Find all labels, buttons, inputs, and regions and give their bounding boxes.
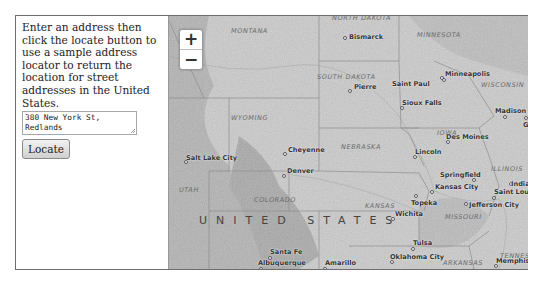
city-label: Santa Fe xyxy=(270,248,303,256)
city-label: Bismarck xyxy=(349,33,383,41)
city-marker-icon xyxy=(411,247,415,251)
state-label: ARKANSAS xyxy=(443,259,483,267)
map-view[interactable]: + − MONTANANORTH DAKOTAMINNESOTASOUTH DA… xyxy=(168,16,528,269)
city-label: Cheyenne xyxy=(288,146,325,154)
state-label: MISSOURI xyxy=(445,213,482,221)
city-marker-icon xyxy=(414,194,418,198)
city-label: Tulsa xyxy=(413,239,432,247)
state-label: NEBRASKA xyxy=(341,143,381,151)
state-label: COLORADO xyxy=(254,196,296,204)
city-label: Denver xyxy=(287,167,314,175)
locate-button[interactable]: Locate xyxy=(22,139,70,159)
instructions-text: Enter an address then click the locate b… xyxy=(22,21,164,109)
state-label: MINNESOTA xyxy=(417,31,461,39)
city-label: Memphis xyxy=(496,257,528,265)
city-label: Amarillo xyxy=(325,259,356,267)
city-label: Kansas City xyxy=(435,183,478,191)
state-label: KANSAS xyxy=(365,202,395,210)
city-label: Des Moines xyxy=(446,133,489,141)
city-label: Topeka xyxy=(411,199,437,207)
address-value: 380 New York St, Redlands xyxy=(25,113,100,132)
city-marker-icon xyxy=(492,196,496,200)
city-label: Indian xyxy=(511,180,528,188)
state-label: UTAH xyxy=(179,186,199,194)
city-marker-icon xyxy=(348,89,352,93)
state-label: ILLINOIS xyxy=(491,165,523,173)
zoom-control: + − xyxy=(179,29,203,70)
city-marker-icon xyxy=(323,267,327,269)
city-marker-icon xyxy=(343,36,347,40)
city-marker-icon xyxy=(259,267,263,269)
state-label: NORTH DAKOTA xyxy=(332,16,391,22)
locator-panel: Enter an address then click the locate b… xyxy=(16,16,168,269)
city-marker-icon xyxy=(282,174,286,178)
city-label: Saint Paul xyxy=(392,80,430,88)
city-label: Sioux Falls xyxy=(402,99,442,107)
city-label: Springfield xyxy=(440,171,481,179)
city-label: Jefferson City xyxy=(469,201,519,209)
app-frame: Enter an address then click the locate b… xyxy=(15,15,528,270)
state-label: WYOMING xyxy=(231,114,268,122)
address-input[interactable]: 380 New York St, Redlands xyxy=(22,111,137,135)
city-marker-icon xyxy=(464,202,468,206)
resize-grip-icon[interactable] xyxy=(130,128,135,133)
city-marker-icon xyxy=(442,78,446,82)
zoom-out-button[interactable]: − xyxy=(180,49,202,69)
state-label: WISCONSIN xyxy=(481,81,524,89)
state-label: SOUTH DAKOTA xyxy=(317,73,376,81)
city-label: Madison xyxy=(495,107,526,115)
city-marker-icon xyxy=(283,152,287,156)
state-label: MONTANA xyxy=(231,27,268,35)
city-label: Gran xyxy=(523,121,528,129)
city-marker-icon xyxy=(524,116,528,120)
country-label: UNITED STATES xyxy=(199,214,401,227)
city-label: Salt Lake City xyxy=(186,154,237,162)
city-marker-icon xyxy=(430,190,434,194)
zoom-in-button[interactable]: + xyxy=(180,30,202,49)
city-label: Minneapolis xyxy=(445,70,490,78)
city-label: Oklahoma City xyxy=(390,253,444,261)
city-label: Saint Louis xyxy=(494,188,528,196)
city-label: Lincoln xyxy=(415,148,442,156)
city-label: Pierre xyxy=(354,83,377,91)
city-marker-icon xyxy=(503,115,507,119)
city-label: Albuquerque xyxy=(258,259,306,267)
